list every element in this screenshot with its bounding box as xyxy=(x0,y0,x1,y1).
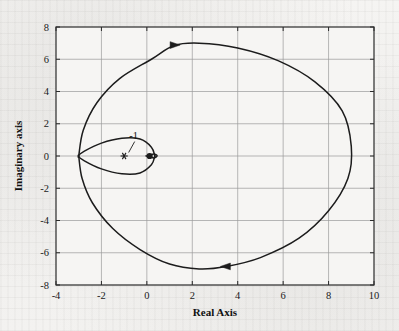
origin-point-marker xyxy=(146,153,152,159)
y-tick-label: 0 xyxy=(44,151,49,162)
x-tick-label: 2 xyxy=(190,290,195,301)
y-tick-label: 4 xyxy=(44,86,50,97)
x-tick-label: 4 xyxy=(235,290,241,301)
y-tick-label: -4 xyxy=(40,215,49,226)
x-tick-label: 8 xyxy=(326,290,331,301)
y-tick-label: 8 xyxy=(44,22,49,33)
y-tick-label: -6 xyxy=(40,247,49,258)
chart-canvas: -4-20246810 -8-6-4-202468 -1 Real Axis I… xyxy=(0,0,399,331)
nyquist-plot-figure: -4-20246810 -8-6-4-202468 -1 Real Axis I… xyxy=(0,0,399,331)
x-tick-label: 10 xyxy=(369,290,380,301)
y-tick-label: -2 xyxy=(40,183,49,194)
x-axis-tick-labels: -4-20246810 xyxy=(52,290,380,301)
y-axis-title: Imaginary axis xyxy=(12,120,24,191)
x-tick-label: -2 xyxy=(97,290,106,301)
y-axis-tick-labels: -8-6-4-202468 xyxy=(40,22,50,291)
x-tick-label: -4 xyxy=(52,290,61,301)
y-tick-label: 6 xyxy=(44,54,49,65)
x-tick-label: 6 xyxy=(281,290,286,301)
minus-one-label: -1 xyxy=(129,130,138,141)
x-axis-title: Real Axis xyxy=(193,306,238,318)
x-tick-label: 0 xyxy=(144,290,149,301)
y-tick-label: 2 xyxy=(44,118,49,129)
y-tick-label: -8 xyxy=(40,280,49,291)
